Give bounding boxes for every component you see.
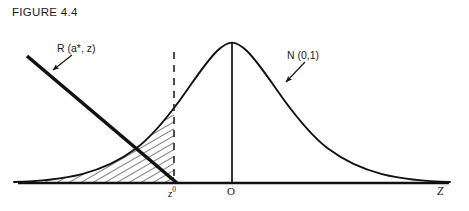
axis-tick-label-threshold: z0 [168, 185, 176, 199]
risk-function-line [27, 56, 177, 183]
figure-drawing [0, 0, 469, 211]
risk-label-leader-arrow [53, 55, 72, 70]
axis-name-label: Z [437, 185, 443, 197]
threshold-superscript: 0 [172, 185, 176, 194]
hatched-region [0, 60, 210, 190]
normal-density-label: N (0,1) [287, 49, 319, 61]
figure-container: FIGURE 4.4 [0, 0, 469, 211]
risk-function-label: R (a*, z) [57, 42, 96, 54]
axis-tick-label-origin: O [227, 185, 235, 197]
density-label-leader-arrow [286, 62, 305, 82]
